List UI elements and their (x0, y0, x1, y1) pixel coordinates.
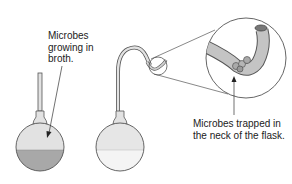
left-caption-line1: Microbes (48, 30, 94, 42)
zoomed-neck-view (196, 18, 286, 98)
left-caption: Microbes growing in broth. (48, 30, 94, 65)
right-caption-line1: Microbes trapped in (193, 118, 285, 130)
left-caption-line2: growing in (48, 42, 94, 54)
flask-experiment-diagram (0, 0, 292, 184)
right-caption: Microbes trapped in the neck of the flas… (193, 118, 285, 141)
straight-neck-flask (14, 73, 66, 174)
swan-neck-flask (94, 48, 150, 174)
right-caption-line2: the neck of the flask. (193, 130, 285, 142)
left-caption-line3: broth. (48, 53, 94, 65)
